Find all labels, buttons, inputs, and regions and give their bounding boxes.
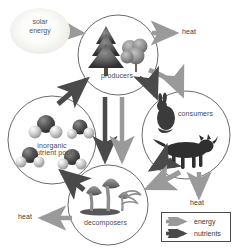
- legend-label-energy: energy: [194, 218, 215, 225]
- node-circle-nutrient-pool: [8, 96, 96, 184]
- nutrient-pool-label-line2: nutrient pool: [32, 149, 72, 156]
- node-label-inorganic-nutrient-pool: inorganic nutrient pool: [14, 142, 90, 157]
- solar-energy-label-line2: energy: [10, 27, 70, 36]
- heat-label-decomposers: heat: [18, 213, 32, 220]
- arrow-consumers-to-decomposers-energy: [148, 172, 180, 188]
- energy-arrow-icon: [165, 217, 191, 226]
- legend-label-nutrients: nutrients: [194, 230, 221, 237]
- node-label-decomposers: decomposers: [84, 219, 127, 226]
- heat-label-consumers: heat: [190, 199, 204, 206]
- node-label-producers: producers: [101, 72, 133, 79]
- solar-energy-label-line1: solar: [10, 18, 70, 27]
- legend: energy nutrients: [161, 212, 231, 242]
- legend-item-nutrients: nutrients: [165, 227, 221, 239]
- node-label-consumers: consumers: [178, 110, 213, 117]
- heat-label-producers: heat: [182, 28, 196, 35]
- solar-energy-label: solar energy: [10, 18, 70, 36]
- nutrient-pool-label-line1: inorganic: [37, 142, 66, 149]
- ecosystem-cycle-diagram: solar energy producers consumers decompo…: [0, 0, 238, 252]
- nutrients-arrow-icon: [165, 229, 191, 238]
- legend-item-energy: energy: [165, 215, 215, 227]
